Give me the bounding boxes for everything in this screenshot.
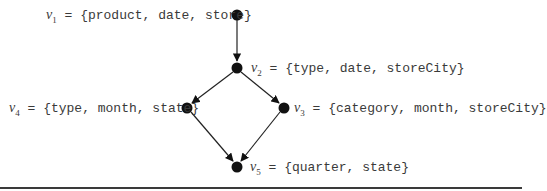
node-attribute-set: = {type, date, storeCity} xyxy=(270,61,465,76)
node-name: v2 xyxy=(251,60,262,75)
edge-v3-v5 xyxy=(241,112,280,161)
node-label-v3: v3 = {category, month, storeCity} xyxy=(294,100,547,121)
node-label-v4: v4 = {type, month, state} xyxy=(9,100,199,121)
node-attribute-set: = {category, month, storeCity} xyxy=(313,101,547,116)
node-name: v3 xyxy=(294,100,305,115)
node-attribute-set: = {product, date, store} xyxy=(65,8,252,23)
node-label-v5: v5 = {quarter, state} xyxy=(250,159,409,180)
node-v3 xyxy=(279,103,290,114)
horizontal-rule xyxy=(0,187,522,189)
node-attribute-set: = {type, month, state} xyxy=(28,101,200,116)
node-v2 xyxy=(232,63,243,74)
node-v5 xyxy=(232,162,243,173)
node-name: v4 xyxy=(9,100,20,115)
node-label-v2: v2 = {type, date, storeCity} xyxy=(251,60,465,81)
node-name: v5 xyxy=(250,159,261,174)
edge-v2-v4 xyxy=(192,72,233,103)
node-name: v1 xyxy=(46,7,57,22)
node-attribute-set: = {quarter, state} xyxy=(269,160,409,175)
node-label-v1: v1 = {product, date, store} xyxy=(46,7,252,28)
